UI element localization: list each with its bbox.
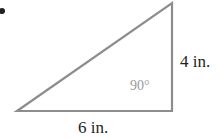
triangle-outline — [17, 3, 172, 111]
right-triangle-figure: 4 in. 6 in. 90° — [0, 0, 223, 139]
side-length-label-height: 4 in. — [180, 53, 210, 70]
side-length-label-base: 6 in. — [78, 119, 108, 136]
right-angle-label: 90° — [130, 79, 150, 93]
